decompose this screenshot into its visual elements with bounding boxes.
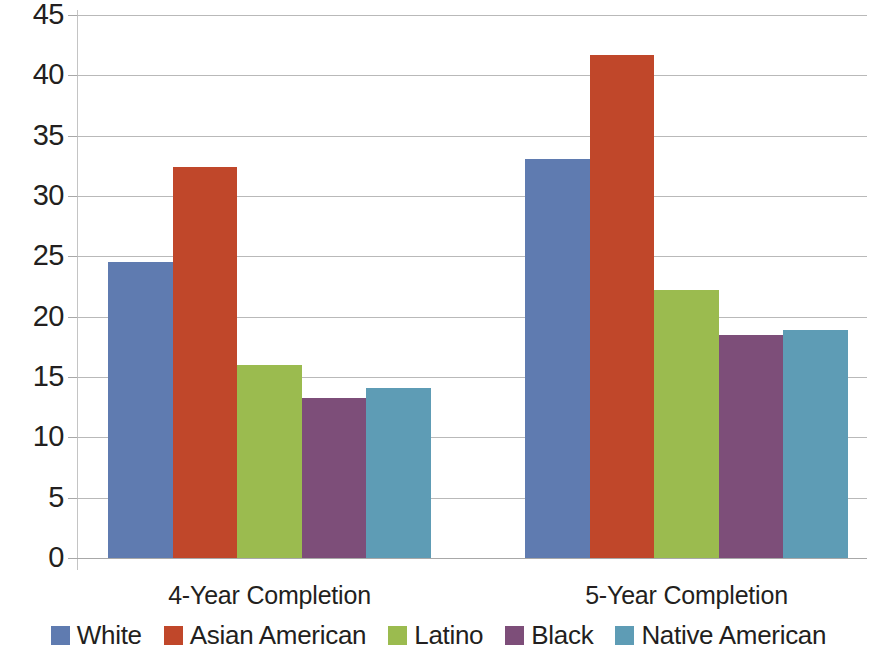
bar[interactable] — [719, 335, 784, 558]
y-axis-tick-mark — [68, 317, 77, 318]
y-axis-tick-mark — [68, 15, 77, 16]
y-axis-tick-label: 35 — [4, 121, 64, 150]
bar[interactable] — [302, 398, 367, 558]
y-axis-tick-mark — [68, 498, 77, 499]
legend-label: White — [77, 622, 142, 648]
bar-group — [108, 15, 431, 558]
legend-item[interactable]: Native American — [615, 622, 826, 648]
legend-item[interactable]: Black — [505, 622, 593, 648]
y-axis-tick-mark — [68, 437, 77, 438]
legend-label: Black — [531, 622, 593, 648]
chart-legend: WhiteAsian AmericanLatinoBlackNative Ame… — [0, 622, 877, 648]
legend-swatch-icon — [505, 626, 524, 645]
y-axis-tick-mark — [68, 558, 77, 559]
legend-item[interactable]: White — [51, 622, 142, 648]
y-axis-tick-mark — [68, 196, 77, 197]
y-axis-tick-mark — [68, 377, 77, 378]
bar[interactable] — [590, 55, 655, 558]
y-axis-tick-mark — [68, 136, 77, 137]
y-axis-tick-label: 25 — [4, 241, 64, 270]
legend-label: Asian American — [190, 622, 366, 648]
legend-swatch-icon — [388, 626, 407, 645]
y-axis-tick-labels: 051015202530354045 — [0, 0, 64, 661]
y-axis-tick-label: 15 — [4, 362, 64, 391]
y-axis-tick-label: 30 — [4, 181, 64, 210]
y-axis-tick-label: 5 — [4, 483, 64, 512]
y-axis-tick-label: 20 — [4, 302, 64, 331]
bar[interactable] — [654, 290, 719, 558]
legend-item[interactable]: Latino — [388, 622, 483, 648]
x-axis-category-label: 5-Year Completion — [525, 583, 848, 608]
legend-label: Native American — [641, 622, 826, 648]
y-axis-tick-label: 40 — [4, 60, 64, 89]
y-axis-tick-label: 45 — [4, 0, 64, 29]
bar[interactable] — [366, 388, 431, 558]
x-axis-category-label: 4-Year Completion — [108, 583, 431, 608]
y-axis-tick-label: 10 — [4, 422, 64, 451]
bar[interactable] — [173, 167, 238, 558]
y-axis-tick-label: 0 — [4, 543, 64, 572]
bar[interactable] — [237, 365, 302, 558]
y-axis-tick-mark — [68, 75, 77, 76]
legend-item[interactable]: Asian American — [164, 622, 366, 648]
plot-area — [77, 15, 867, 558]
legend-swatch-icon — [615, 626, 634, 645]
bar[interactable] — [525, 159, 590, 558]
legend-swatch-icon — [51, 626, 70, 645]
bar[interactable] — [108, 262, 173, 558]
legend-label: Latino — [414, 622, 483, 648]
bar-group — [525, 15, 848, 558]
legend-swatch-icon — [164, 626, 183, 645]
gridline — [77, 558, 867, 559]
bar[interactable] — [783, 330, 848, 558]
bar-chart: 051015202530354045 WhiteAsian AmericanLa… — [0, 0, 877, 661]
y-axis-tick-mark — [68, 256, 77, 257]
